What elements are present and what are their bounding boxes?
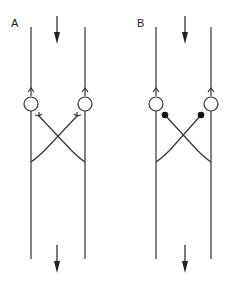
diagram-canvas: [0, 0, 231, 292]
axon-a-left-to-right: [31, 116, 77, 162]
axon-a-right-to-left: [39, 116, 85, 162]
axon-b-right-to-left: [165, 115, 211, 162]
inhibitory-synapse-b-right: [198, 112, 205, 119]
neuron-a-right: [78, 97, 92, 111]
neuron-a-left: [24, 97, 38, 111]
neuron-b-left: [149, 97, 163, 111]
axon-b-left-to-right: [156, 115, 201, 162]
panel-b: [149, 16, 218, 273]
inhibitory-synapse-b-left: [162, 112, 169, 119]
panel-a: [24, 16, 92, 273]
neuron-b-right: [204, 97, 218, 111]
